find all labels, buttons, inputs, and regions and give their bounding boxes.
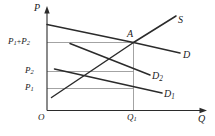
curve-supply: [52, 16, 177, 98]
y-tick-label-p1plusp2: P1+P2: [8, 37, 30, 47]
curve-d2-sub: 2: [159, 75, 163, 83]
supply-demand-figure: P Q O P1+P2 P2 P1 Q1 S D D2 D1 A: [0, 0, 215, 136]
x-axis-label: Q: [198, 114, 205, 124]
origin-label: O: [38, 113, 45, 122]
y-axis-label: P: [34, 3, 40, 13]
y-tick-p1plusp2-sub2: 2: [27, 39, 30, 46]
y-tick-label-p1: P1: [25, 83, 34, 93]
x-tick-q1-sub: 1: [134, 115, 137, 122]
curve-demand-total: [47, 25, 180, 54]
curve-label-demand-2: D2: [152, 71, 163, 83]
point-label-a: A: [127, 29, 133, 39]
curve-label-demand-total: D: [183, 50, 190, 60]
curve-label-supply: S: [178, 15, 183, 25]
curve-demand-2: [70, 44, 150, 76]
y-tick-p2-sub: 2: [31, 68, 34, 75]
y-tick-p1-sub: 1: [31, 85, 34, 92]
x-tick-label-q1: Q1: [127, 113, 137, 123]
curve-d1-sub: 1: [171, 93, 175, 101]
y-tick-label-p2: P2: [25, 66, 34, 76]
curve-label-demand-1: D1: [164, 89, 175, 101]
y-axis-arrowhead: [44, 6, 49, 14]
